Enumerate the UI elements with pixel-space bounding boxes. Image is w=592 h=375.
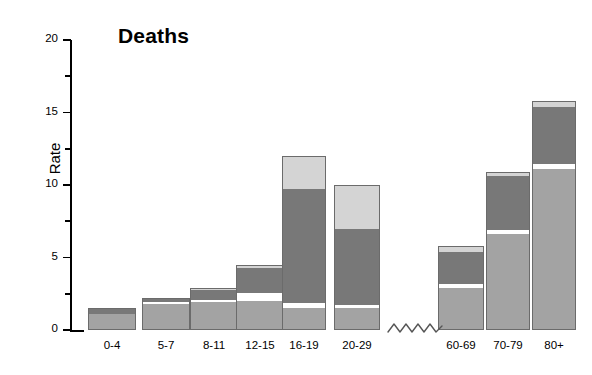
bar-segment-medium — [190, 302, 238, 330]
y-axis-minor-tick — [65, 148, 71, 150]
bar-segment-gap — [438, 284, 484, 288]
bar[interactable] — [88, 308, 136, 330]
bar[interactable] — [532, 101, 576, 330]
axis-break-squiggle-icon — [386, 318, 446, 338]
bar-segment-dark — [142, 298, 190, 302]
y-axis-tick — [63, 329, 71, 331]
bar[interactable] — [190, 288, 238, 330]
bar-segment-gap — [334, 305, 380, 308]
bar-segment-dark — [190, 290, 238, 299]
chart-root: Deaths Rate 05101520 0-45-78-1112-1516-1… — [0, 0, 592, 375]
y-axis-tick-label: 15 — [28, 106, 58, 118]
bar[interactable] — [334, 185, 380, 330]
y-axis-tick-label: 5 — [28, 251, 58, 263]
chart-title: Deaths — [118, 24, 189, 48]
bar-segment-gap — [142, 302, 190, 303]
bar-segment-light — [236, 265, 284, 268]
y-axis-tick — [63, 112, 71, 114]
bar-segment-light — [334, 185, 380, 229]
bar-segment-medium — [334, 308, 380, 330]
bar-segment-dark — [236, 268, 284, 293]
y-axis-tick — [63, 184, 71, 186]
bar-segment-light — [486, 172, 530, 176]
x-axis-line — [70, 330, 84, 332]
bar[interactable] — [486, 172, 530, 330]
y-axis-tick-label: 10 — [28, 178, 58, 190]
bar[interactable] — [282, 156, 326, 330]
bar-segment-light — [190, 288, 238, 290]
bar-segment-medium — [532, 169, 576, 330]
bar-segment-medium — [88, 314, 136, 330]
bar-segment-dark — [88, 308, 136, 314]
bar-segment-medium — [282, 308, 326, 330]
x-axis-tick-label: 80+ — [518, 339, 590, 351]
bar-segment-gap — [532, 164, 576, 169]
bar-segment-dark — [334, 229, 380, 306]
y-axis-tick-label: 20 — [28, 33, 58, 45]
bar[interactable] — [142, 298, 190, 330]
bar[interactable] — [236, 265, 284, 330]
bar-segment-dark — [438, 252, 484, 284]
bar-segment-medium — [486, 234, 530, 330]
bar-segment-gap — [236, 293, 284, 301]
bar-segment-gap — [282, 303, 326, 308]
bar-segment-gap — [190, 300, 238, 303]
bar-segment-dark — [486, 176, 530, 230]
y-axis-minor-tick — [65, 220, 71, 222]
bar-segment-medium — [236, 301, 284, 330]
bar-segment-light — [282, 156, 326, 189]
bar-segment-light — [532, 101, 576, 108]
bar-segment-light — [438, 246, 484, 252]
y-axis-tick-label: 0 — [28, 323, 58, 335]
y-axis-minor-tick — [65, 293, 71, 295]
bar-segment-dark — [532, 107, 576, 164]
bar-segment-medium — [142, 304, 190, 330]
y-axis-tick — [63, 39, 71, 41]
y-axis-minor-tick — [65, 75, 71, 77]
bar-segment-dark — [282, 189, 326, 303]
bar-segment-gap — [486, 230, 530, 234]
x-axis-tick-label: 20-29 — [320, 339, 394, 351]
y-axis-tick — [63, 257, 71, 259]
